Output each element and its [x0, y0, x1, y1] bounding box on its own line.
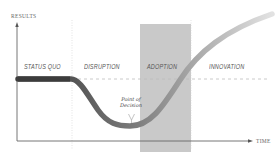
phase-label-status-quo: STATUS QUO: [24, 63, 61, 70]
phase-label-innovation: INNOVATION: [209, 63, 244, 70]
y-axis-label: RESULTS: [11, 13, 36, 19]
x-axis-arrow-icon: [248, 139, 253, 142]
y-axis-arrow-icon: [15, 22, 18, 27]
point-of-decision-line2: Decision: [114, 102, 148, 108]
change-curve-diagram: [0, 0, 278, 157]
x-axis-label: TIME: [256, 138, 271, 144]
point-of-decision-marker-icon: [129, 114, 135, 120]
adoption-band: [140, 24, 191, 152]
phase-label-adoption: ADOPTION: [147, 63, 177, 70]
phase-label-disruption: DISRUPTION: [84, 63, 120, 70]
point-of-decision-label: Point of Decision: [114, 96, 148, 108]
